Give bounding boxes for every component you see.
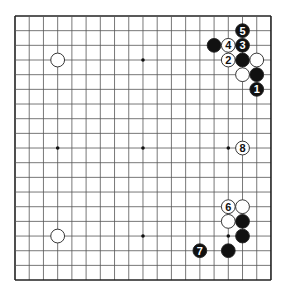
move-number-label: 7	[197, 245, 203, 257]
white-stone	[236, 68, 250, 82]
white-stone	[221, 214, 235, 228]
black-stone: 3	[236, 38, 250, 52]
move-number-label: 8	[239, 142, 245, 154]
move-number-label: 3	[239, 39, 245, 51]
black-stone	[236, 229, 250, 243]
move-number-label: 1	[254, 83, 260, 95]
black-stone	[236, 53, 250, 67]
white-stone: 8	[236, 141, 250, 155]
move-number-label: 5	[239, 25, 245, 37]
star-point	[141, 234, 145, 238]
star-point	[141, 58, 145, 62]
black-stone	[221, 244, 235, 258]
black-stone: 5	[236, 24, 250, 38]
white-stone	[51, 53, 65, 67]
black-stone: 7	[193, 244, 207, 258]
white-stone	[250, 53, 264, 67]
move-number-label: 4	[225, 39, 232, 51]
white-stone: 2	[221, 53, 235, 67]
move-number-label: 6	[225, 201, 231, 213]
star-point	[227, 234, 231, 238]
white-stone	[51, 229, 65, 243]
star-point	[56, 146, 60, 150]
white-stone: 4	[221, 38, 235, 52]
white-stone: 6	[221, 200, 235, 214]
black-stone	[236, 214, 250, 228]
black-stone	[207, 38, 221, 52]
move-number-label: 2	[225, 54, 231, 66]
black-stone	[250, 68, 264, 82]
white-stone	[236, 200, 250, 214]
go-board: 54321867	[0, 0, 286, 294]
black-stone: 1	[250, 82, 264, 96]
star-point	[141, 146, 145, 150]
star-point	[227, 146, 231, 150]
